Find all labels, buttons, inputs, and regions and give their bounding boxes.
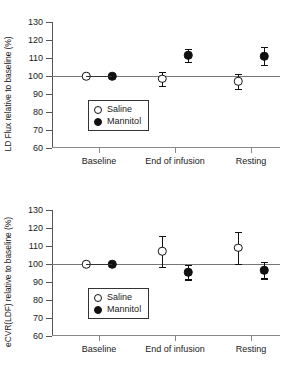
marker-filled-circle: [184, 268, 193, 277]
y-tick-label-top-130: 130: [28, 17, 43, 27]
legend-label: Saline: [107, 292, 132, 303]
y-tick-label-bottom-70: 70: [33, 313, 43, 323]
error-cap-lower: [235, 264, 242, 265]
y-tick-bottom-70: [46, 318, 52, 319]
x-tick-label-top-1: End of infusion: [145, 156, 205, 166]
y-tick-bottom-90: [46, 282, 52, 283]
y-tick-label-top-80: 80: [33, 107, 43, 117]
y-tick-top-80: [46, 112, 52, 113]
y-tick-label-top-70: 70: [33, 125, 43, 135]
legend-filled-circle-icon: [94, 306, 102, 314]
y-axis-title-top: LD Flux relative to baseline (%): [0, 0, 16, 188]
y-tick-label-top-100: 100: [28, 71, 43, 81]
y-tick-label-top-90: 90: [33, 89, 43, 99]
legend-item-saline: Saline: [94, 104, 141, 115]
legend-label: Saline: [107, 104, 132, 115]
error-cap-upper: [261, 47, 268, 48]
x-tick-label-bottom-0: Baseline: [82, 344, 117, 354]
marker-open-circle: [234, 77, 243, 86]
error-cap-lower: [261, 65, 268, 66]
y-tick-bottom-110: [46, 246, 52, 247]
y-axis-spine-bottom: [52, 210, 53, 336]
error-cap-upper: [261, 262, 268, 263]
legend-filled-circle-icon: [94, 118, 102, 126]
panel-ld-flux: LD Flux relative to baseline (%) 6070809…: [0, 0, 290, 188]
x-tick-bottom-0: [99, 336, 100, 341]
legend-open-circle-icon: [94, 106, 102, 114]
legend-label: Mannitol: [107, 304, 141, 315]
y-tick-top-90: [46, 94, 52, 95]
x-axis-spine-bottom: [52, 335, 280, 336]
y-tick-label-bottom-130: 130: [28, 205, 43, 215]
marker-open-circle: [158, 247, 167, 256]
legend-label: Mannitol: [107, 116, 141, 127]
y-tick-label-bottom-90: 90: [33, 277, 43, 287]
x-tick-label-top-0: Baseline: [82, 156, 117, 166]
plot-area-ld-flux: 60708090100110120130BaselineEnd of infus…: [52, 22, 280, 148]
x-tick-label-bottom-1: End of infusion: [145, 344, 205, 354]
y-axis-title-bottom: eCVR(LDF) relative to baseline (%): [0, 188, 16, 376]
error-cap-lower: [235, 89, 242, 90]
panel-ecvr-ldf: eCVR(LDF) relative to baseline (%) 60708…: [0, 188, 290, 376]
x-axis-spine-top: [52, 147, 280, 148]
y-tick-bottom-60: [46, 336, 52, 337]
y-tick-label-bottom-120: 120: [28, 223, 43, 233]
y-tick-bottom-130: [46, 210, 52, 211]
error-cap-lower: [261, 278, 268, 279]
y-tick-bottom-120: [46, 228, 52, 229]
marker-open-circle: [234, 244, 243, 253]
y-tick-bottom-80: [46, 300, 52, 301]
x-tick-bottom-1: [175, 336, 176, 341]
error-cap-upper: [235, 74, 242, 75]
plot-area-ecvr-ldf: 60708090100110120130BaselineEnd of infus…: [52, 210, 280, 336]
x-tick-top-0: [99, 148, 100, 153]
legend-item-mannitol: Mannitol: [94, 116, 141, 127]
figure-two-panel-chart: LD Flux relative to baseline (%) 6070809…: [0, 0, 290, 376]
error-cap-upper: [159, 236, 166, 237]
x-tick-label-bottom-2: Resting: [236, 344, 267, 354]
legend-open-circle-icon: [94, 294, 102, 302]
legend-item-saline: Saline: [94, 292, 141, 303]
error-cap-upper: [185, 265, 192, 266]
y-tick-top-120: [46, 40, 52, 41]
legend-top: SalineMannitol: [88, 100, 149, 131]
marker-filled-circle: [184, 51, 193, 60]
legend-bottom: SalineMannitol: [88, 288, 149, 319]
y-tick-top-60: [46, 148, 52, 149]
y-tick-label-top-110: 110: [29, 53, 43, 63]
y-tick-label-top-60: 60: [33, 143, 43, 153]
baseline-connector-top: [86, 76, 112, 77]
y-tick-label-top-120: 120: [28, 35, 43, 45]
y-tick-top-130: [46, 22, 52, 23]
marker-open-circle: [158, 74, 167, 83]
marker-filled-circle: [260, 52, 269, 61]
x-tick-top-2: [251, 148, 252, 153]
x-tick-top-1: [175, 148, 176, 153]
y-tick-top-70: [46, 130, 52, 131]
legend-item-mannitol: Mannitol: [94, 304, 141, 315]
x-tick-bottom-2: [251, 336, 252, 341]
error-cap-lower: [159, 86, 166, 87]
y-tick-label-bottom-100: 100: [28, 259, 43, 269]
error-cap-lower: [185, 279, 192, 280]
x-tick-label-top-2: Resting: [236, 156, 267, 166]
y-axis-spine-top: [52, 22, 53, 148]
y-tick-label-bottom-60: 60: [33, 331, 43, 341]
error-cap-upper: [159, 72, 166, 73]
y-tick-label-bottom-110: 110: [29, 241, 43, 251]
error-cap-lower: [185, 62, 192, 63]
error-cap-lower: [159, 267, 166, 268]
error-cap-upper: [235, 232, 242, 233]
y-tick-label-bottom-80: 80: [33, 295, 43, 305]
y-tick-top-110: [46, 58, 52, 59]
marker-filled-circle: [260, 266, 269, 275]
baseline-connector-bottom: [86, 264, 112, 265]
